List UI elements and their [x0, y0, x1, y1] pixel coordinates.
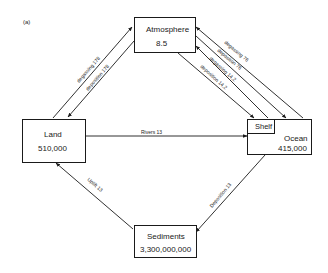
sediments-box: Sediments 3,300,000,000: [134, 225, 197, 258]
land-box: Land 510,000: [22, 119, 86, 163]
flow-label-land-to-ocean: Rivers 13: [141, 129, 162, 135]
ocean-name: Ocean: [284, 134, 308, 143]
arrow-sediments-to-land: [56, 163, 133, 229]
sediments-value: 3,300,000,000: [140, 245, 191, 254]
sediments-name: Sediments: [147, 232, 185, 241]
atmosphere-box: Atmosphere 8.5: [134, 17, 196, 53]
shelf-label: Shelf: [255, 122, 272, 131]
ocean-box: Shelf Ocean 415,000: [247, 119, 312, 155]
arrow-atmosphere-to-ocean: [196, 36, 286, 118]
atmosphere-name: Atmosphere: [146, 25, 189, 34]
shelf-box: Shelf: [247, 119, 275, 134]
land-name: Land: [44, 130, 62, 139]
atmosphere-value: 8.5: [156, 39, 167, 48]
ocean-value: 415,000: [278, 144, 307, 153]
arrow-land-to-atmosphere: [53, 27, 132, 118]
arrow-ocean-to-sediments: [196, 155, 265, 232]
flow-label-sediments-to-land: Uplift 13: [86, 176, 104, 193]
land-value: 510,000: [38, 144, 67, 153]
